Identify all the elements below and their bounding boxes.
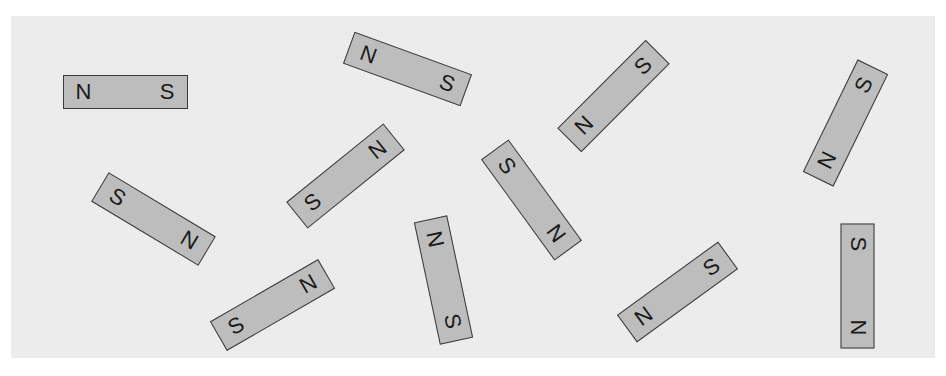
pole-label-right: S <box>850 74 876 97</box>
pole-label-left: S <box>300 189 325 215</box>
pole-label-right: S <box>699 254 724 280</box>
pole-label-left: N <box>422 229 447 249</box>
pole-label-left: N <box>570 112 597 139</box>
pole-label-right: N <box>176 227 201 254</box>
pole-label-right: S <box>630 53 656 79</box>
pole-label-left: N <box>76 81 92 103</box>
bar-magnet-11: S N <box>840 224 874 349</box>
figure-background <box>11 16 935 358</box>
pole-label-right: S <box>436 71 457 97</box>
pole-label-right: N <box>846 320 868 336</box>
pole-label-left: N <box>813 148 840 172</box>
pole-label-left: S <box>846 237 868 252</box>
bar-magnet-1: N S <box>63 75 188 109</box>
pole-label-right: S <box>439 312 464 331</box>
pole-label-left: N <box>630 303 656 330</box>
pole-label-left: N <box>357 42 379 68</box>
pole-label-left: S <box>493 153 519 178</box>
pole-label-right: N <box>542 221 569 247</box>
pole-label-right: N <box>296 271 321 298</box>
pole-label-right: N <box>364 136 390 163</box>
pole-label-left: S <box>105 184 129 210</box>
pole-label-left: S <box>224 313 248 339</box>
pole-label-right: S <box>160 81 175 103</box>
